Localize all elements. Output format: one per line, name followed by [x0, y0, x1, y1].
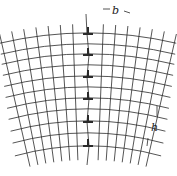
tilt-boundary-diagram: b h [0, 0, 177, 176]
grid-line [98, 24, 103, 160]
grid-line [60, 25, 70, 161]
lattice-grid [0, 0, 177, 176]
label-h: h [151, 122, 158, 133]
grid-line [124, 11, 130, 13]
grid-line [106, 25, 116, 161]
edge-dislocation-icon [83, 139, 93, 146]
grid-line [130, 29, 152, 163]
grid-line [24, 29, 46, 163]
grid-line [36, 27, 54, 162]
grid-line [48, 26, 62, 161]
grid-line [73, 24, 78, 160]
grid-line [122, 27, 140, 162]
label-b: b [112, 5, 119, 16]
grid-line [114, 26, 128, 161]
